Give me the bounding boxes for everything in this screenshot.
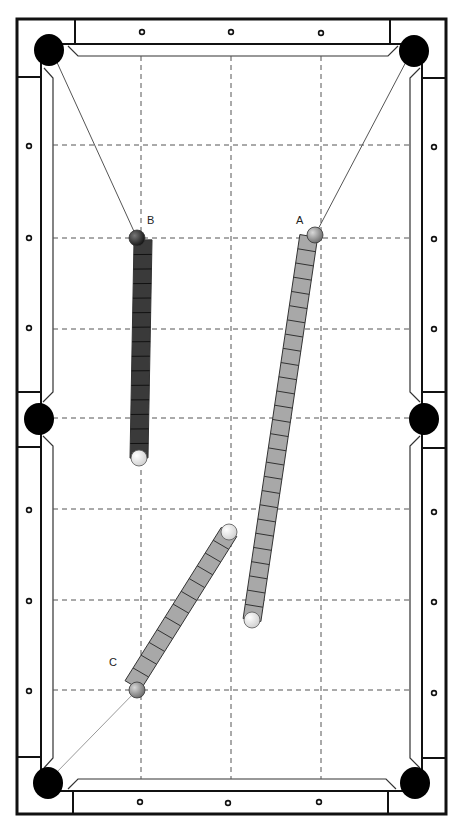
shot-label-b: B: [147, 214, 154, 226]
diamond-marker-icon: [229, 30, 234, 35]
cue-ball-c: [221, 524, 237, 540]
diamond-marker-icon: [27, 508, 32, 513]
object-ball-b: [129, 230, 145, 246]
diamond-marker-icon: [432, 327, 437, 332]
diamond-marker-icon: [432, 237, 437, 242]
diamond-marker-icon: [27, 599, 32, 604]
shot-label-c: C: [109, 656, 117, 668]
diamond-marker-icon: [319, 31, 324, 36]
diamond-marker-icon: [432, 145, 437, 150]
diamond-marker-icon: [432, 600, 437, 605]
pocket-middle-right: [409, 403, 439, 435]
diamond-marker-icon: [27, 689, 32, 694]
cue-ball-b: [131, 450, 147, 466]
diamond-marker-icon: [226, 801, 231, 806]
pocket-top-left: [34, 34, 64, 66]
diamond-marker-icon: [138, 800, 143, 805]
cue-ball-a: [244, 612, 260, 628]
pocket-bottom-right: [400, 767, 430, 799]
diamond-marker-icon: [432, 510, 437, 515]
diamond-marker-icon: [317, 800, 322, 805]
object-ball-a: [307, 227, 323, 243]
diamond-marker-icon: [432, 691, 437, 696]
diamond-marker-icon: [27, 326, 32, 331]
object-ball-c: [129, 682, 145, 698]
shot-path-band: [130, 240, 152, 458]
diamond-marker-icon: [27, 236, 32, 241]
pocket-top-right: [399, 35, 429, 67]
diamond-marker-icon: [140, 30, 145, 35]
pool-table-diagram: B A C: [0, 0, 465, 833]
diamond-marker-icon: [27, 144, 32, 149]
pocket-middle-left: [24, 403, 54, 435]
pocket-bottom-left: [33, 767, 63, 799]
shot-label-a: A: [296, 214, 304, 226]
